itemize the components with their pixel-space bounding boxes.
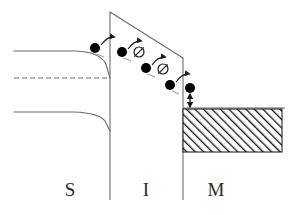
empty-trap-1 xyxy=(134,47,144,57)
electron-4 xyxy=(165,80,175,90)
tail-mark-3 xyxy=(148,74,155,77)
region-label-metal: M xyxy=(208,179,225,200)
valence-band-edge xyxy=(14,112,110,131)
hop-arrow-1 xyxy=(101,37,114,45)
empty-trap-2 xyxy=(158,64,168,74)
band-diagram-figure: S I M xyxy=(0,0,292,215)
hop-arrow-2 xyxy=(128,41,141,49)
metal-filled-states-block xyxy=(183,109,282,152)
empty-trap-states xyxy=(134,47,168,74)
electron-1 xyxy=(90,43,100,53)
hopping-arrows xyxy=(101,37,189,82)
tail-mark-4 xyxy=(172,91,179,94)
conduction-band-edge xyxy=(14,51,110,78)
electron-5 xyxy=(185,83,195,93)
region-label-insulator: I xyxy=(143,179,149,200)
tail-mark-2 xyxy=(124,58,131,61)
electron-carriers xyxy=(90,43,195,93)
region-label-semiconductor: S xyxy=(65,179,76,200)
band-diagram-canvas: S I M xyxy=(0,0,292,215)
electron-2 xyxy=(117,47,127,57)
electron-3 xyxy=(141,63,151,73)
